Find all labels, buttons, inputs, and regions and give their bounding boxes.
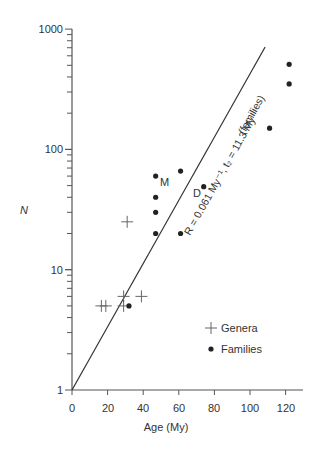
xtick-label-120: 120: [277, 402, 295, 414]
axis-ticks: [65, 29, 286, 395]
legend-families-label: Families: [221, 343, 262, 355]
x-axis-label: Age (My): [144, 421, 189, 433]
families-point-icon: [287, 62, 292, 67]
families-point-icon: [287, 81, 292, 86]
families-point-icon: [178, 169, 183, 174]
families-point-icon: [267, 126, 272, 131]
families-point-icon: [126, 303, 131, 308]
ytick-label-1000: 1000: [39, 23, 63, 35]
point-label-m: M: [160, 176, 169, 188]
ytick-label-100: 100: [45, 143, 63, 155]
families-point-icon: [153, 173, 158, 178]
xtick-label-80: 80: [208, 402, 220, 414]
xtick-label-40: 40: [137, 402, 149, 414]
genera-point-icon: [121, 216, 133, 228]
xtick-label-0: 0: [69, 402, 75, 414]
ytick-label-1: 1: [57, 384, 63, 396]
legend-families-marker-icon: [208, 346, 213, 351]
genera-point-icon: [135, 290, 147, 302]
legend-genera-label: Genera: [221, 322, 259, 334]
point-label-d: D: [193, 187, 201, 199]
ytick-label-10: 10: [51, 264, 63, 276]
families-point-icon: [153, 231, 158, 236]
regression-line: [72, 47, 265, 390]
families-point-icon: [153, 210, 158, 215]
legend-genera-marker-icon: [205, 322, 217, 334]
families-point-icon: [153, 195, 158, 200]
axes: [72, 29, 303, 390]
legend: Genera Families: [205, 322, 262, 355]
xtick-label-100: 100: [241, 402, 259, 414]
y-axis-label: N: [20, 204, 28, 216]
fit-line: [72, 47, 265, 390]
xtick-label-60: 60: [173, 402, 185, 414]
scatter-chart: N Age (My) 1000 100 10 1 0 20 40 60 80 1…: [0, 0, 320, 456]
xtick-label-20: 20: [102, 402, 114, 414]
